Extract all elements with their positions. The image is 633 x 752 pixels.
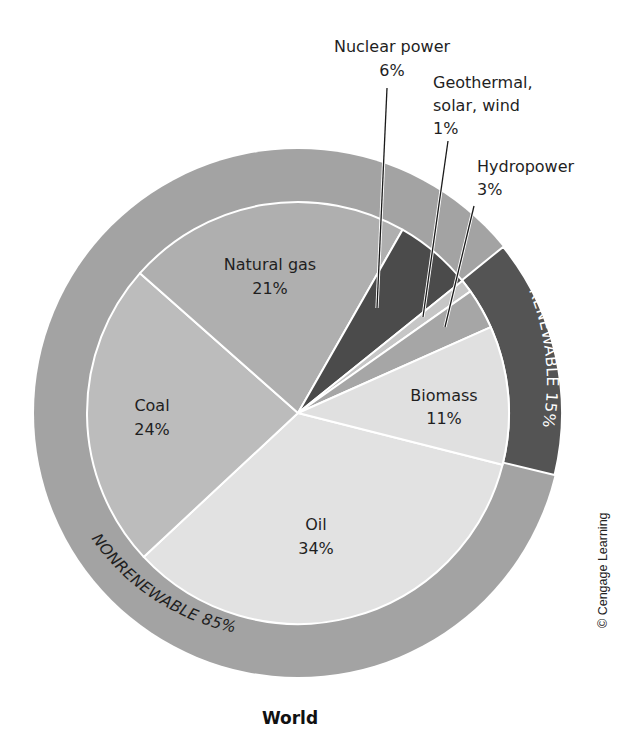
- label-geothermal-pct: 1%: [433, 119, 458, 138]
- label-natural-gas-pct: 21%: [252, 279, 288, 298]
- label-oil: Oil: [305, 515, 326, 534]
- label-nuclear-pct: 6%: [379, 61, 404, 80]
- label-biomass-pct: 11%: [426, 409, 462, 428]
- label-natural-gas: Natural gas: [224, 255, 316, 274]
- chart-title: World: [262, 708, 318, 728]
- label-biomass: Biomass: [410, 386, 477, 405]
- label-coal: Coal: [134, 396, 169, 415]
- energy-pie-chart: Natural gas 21% Coal 24% Oil 34% Biomass…: [0, 0, 633, 752]
- label-oil-pct: 34%: [298, 539, 334, 558]
- label-coal-pct: 24%: [134, 420, 170, 439]
- label-hydropower-pct: 3%: [477, 180, 502, 199]
- copyright-credit: © Cengage Learning: [596, 512, 610, 628]
- label-hydropower: Hydropower: [477, 157, 575, 176]
- label-geothermal-line1: Geothermal,: [433, 73, 533, 92]
- label-geothermal-line2: solar, wind: [433, 96, 520, 115]
- label-nuclear: Nuclear power: [334, 37, 451, 56]
